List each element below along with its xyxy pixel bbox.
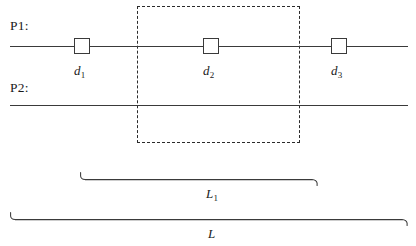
distance-symbol-d1: d <box>74 63 81 78</box>
path-line-p2 <box>10 105 408 106</box>
path-label-p2: P2: <box>10 81 29 95</box>
distance-symbol-d2: d <box>203 63 210 78</box>
brace-symbol-l: L <box>208 226 215 241</box>
node-2 <box>203 38 219 54</box>
distance-subscript-d3: 3 <box>338 70 343 80</box>
distance-label-d1: d1 <box>74 64 85 77</box>
distance-label-d2: d2 <box>203 64 214 77</box>
brace-l <box>10 212 408 226</box>
link-topology-figure: P1: d1 d2 d3 P2: L1 L <box>0 0 416 246</box>
distance-label-d3: d3 <box>331 64 342 77</box>
brace-label-l1: L1 <box>206 187 218 200</box>
distance-subscript-d2: 2 <box>210 70 215 80</box>
brace-subscript-l1: 1 <box>214 193 219 203</box>
brace-l1 <box>80 172 318 186</box>
dashed-region <box>137 6 300 143</box>
path-label-p1: P1: <box>10 19 29 33</box>
distance-subscript-d1: 1 <box>81 70 86 80</box>
node-1 <box>74 38 90 54</box>
brace-symbol-l1: L <box>206 186 213 201</box>
node-3 <box>331 38 347 54</box>
distance-symbol-d3: d <box>331 63 338 78</box>
brace-label-l: L <box>208 227 215 240</box>
